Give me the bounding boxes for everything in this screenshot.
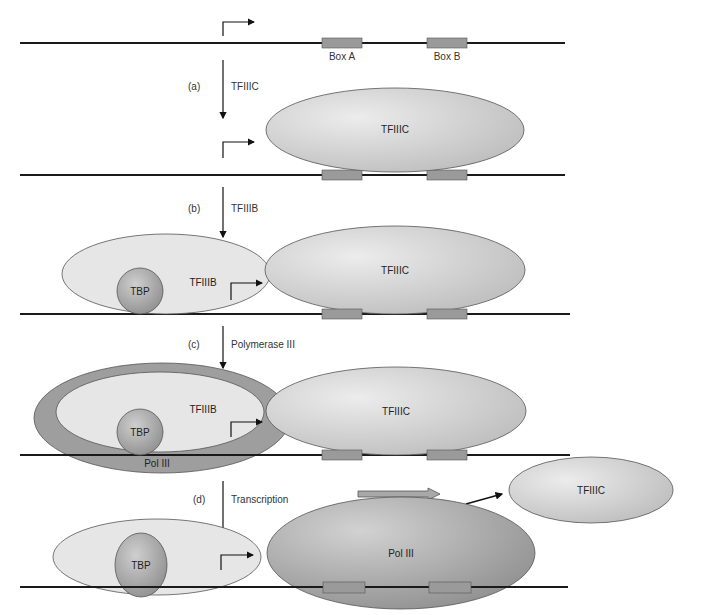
- box-b: [427, 170, 467, 180]
- box-a: [322, 170, 362, 180]
- box-a: [322, 38, 362, 48]
- tbp-label: TBP: [130, 286, 150, 297]
- release-arrow-icon: [466, 494, 502, 504]
- step-label: Polymerase III: [231, 339, 295, 350]
- step-letter: (d): [193, 494, 205, 505]
- box-b-label: Box B: [434, 51, 461, 62]
- stage-transcription: TBP Pol III: [20, 497, 568, 609]
- tss-arrow-icon: [223, 22, 254, 36]
- tfiiic-label: TFIIIC: [577, 485, 605, 496]
- box-a-label: Box A: [329, 51, 355, 62]
- tfiiib-complex: [62, 234, 270, 314]
- box-a: [323, 582, 365, 593]
- box-b: [427, 450, 467, 460]
- tss-arrow-icon: [223, 142, 254, 158]
- step-a: (a) TFIIIC: [188, 60, 259, 118]
- step-b: (b) TFIIIB: [188, 187, 259, 237]
- tbp-label: TBP: [131, 560, 151, 571]
- step-letter: (b): [188, 203, 200, 214]
- step-letter: (c): [188, 339, 200, 350]
- tfiiic-label: TFIIIC: [382, 406, 410, 417]
- stage-initial: Box A Box B: [20, 22, 565, 62]
- box-a: [322, 450, 362, 460]
- pol3-label: Pol III: [144, 458, 170, 469]
- box-b: [427, 309, 467, 319]
- box-b: [427, 38, 467, 48]
- stage-tfiiic-bound: TFIIIC: [20, 88, 565, 180]
- pol3-transcription-diagram: Box A Box B (a) TFIIIC TFIIIC (b) TFIIIB…: [0, 0, 728, 615]
- box-b: [429, 582, 471, 593]
- tfiiic-label: TFIIIC: [381, 124, 409, 135]
- step-letter: (a): [188, 81, 200, 92]
- step-label: TFIIIC: [231, 81, 259, 92]
- box-a: [322, 309, 362, 319]
- stage-pol3-recruited: TBP TFIIIB Pol III TFIIIC: [20, 363, 570, 473]
- step-label: Transcription: [231, 494, 288, 505]
- step-label: TFIIIB: [231, 203, 259, 214]
- tfiiib-label: TFIIIB: [189, 404, 217, 415]
- tfiiic-label: TFIIIC: [381, 265, 409, 276]
- pol3-label: Pol III: [388, 548, 414, 559]
- stage-tfiiib-bound: TBP TFIIIB TFIIIC: [20, 226, 570, 319]
- tbp-label: TBP: [130, 427, 150, 438]
- step-c: (c) Polymerase III: [188, 326, 295, 368]
- tfiiib-label: TFIIIB: [189, 277, 217, 288]
